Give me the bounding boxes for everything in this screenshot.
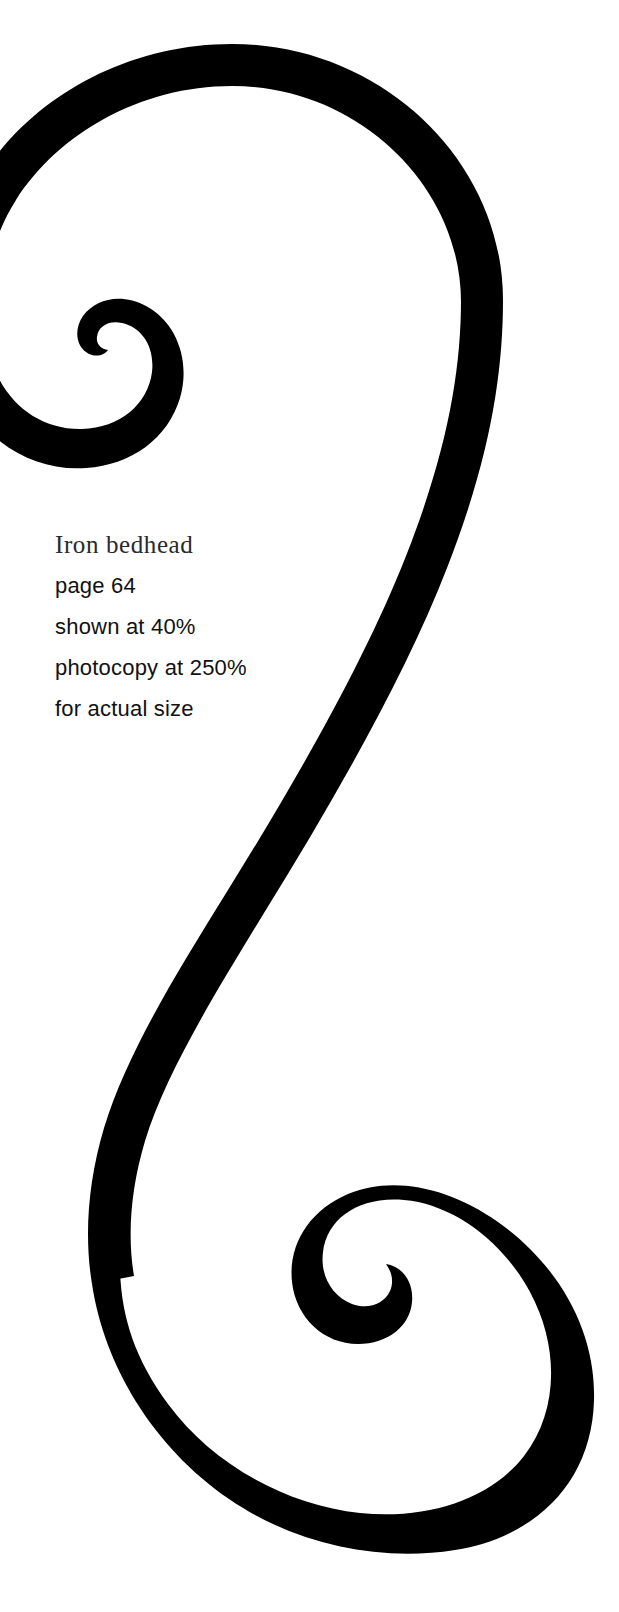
caption-block: Iron bedhead page 64 shown at 40% photoc… bbox=[55, 524, 355, 729]
caption-line-page: page 64 bbox=[55, 565, 355, 606]
caption-line-shown-scale: shown at 40% bbox=[55, 606, 355, 647]
caption-line-photocopy-scale: photocopy at 250% bbox=[55, 647, 355, 688]
s-curve-body-path bbox=[88, 300, 503, 1284]
iron-bedhead-scroll-artwork bbox=[0, 0, 619, 1612]
lower-spiral-path bbox=[92, 1185, 594, 1553]
upper-spiral-path bbox=[0, 44, 503, 468]
caption-line-actual-size: for actual size bbox=[55, 688, 355, 729]
pattern-page: Iron bedhead page 64 shown at 40% photoc… bbox=[0, 0, 619, 1612]
caption-title: Iron bedhead bbox=[55, 524, 355, 565]
